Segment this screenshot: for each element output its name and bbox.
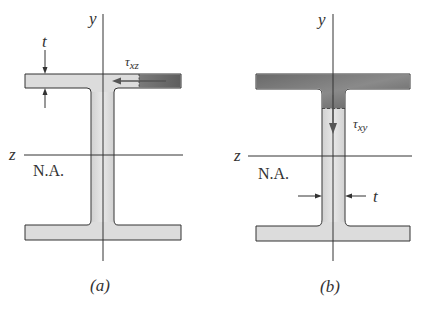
thickness-label-b: t	[373, 187, 379, 206]
y-label-a: y	[87, 9, 97, 28]
y-label-b: y	[316, 10, 326, 29]
stress-label-a: τxz	[125, 54, 140, 71]
panel-b: y τxy z N.A. t (b)	[233, 10, 412, 296]
arrow-up-icon	[43, 88, 48, 95]
arrow-right-icon	[315, 194, 322, 199]
panel-a: y t τxz z N.A. (a)	[8, 9, 183, 295]
caption-b: (b)	[320, 277, 340, 296]
neutral-axis-label-a: N.A.	[33, 162, 64, 179]
caption-a: (a)	[90, 276, 110, 295]
arrow-left-icon	[345, 194, 352, 199]
i-beam-shear-diagram: y t τxz z N.A. (a) y τxy z N.A. t (b)	[0, 0, 424, 309]
z-label-b: z	[233, 146, 241, 165]
thickness-label-a: t	[42, 32, 48, 51]
z-label-a: z	[8, 145, 16, 164]
neutral-axis-label-b: N.A.	[258, 165, 289, 182]
arrow-down-icon	[43, 67, 48, 74]
stress-label-b: τxy	[353, 116, 368, 133]
